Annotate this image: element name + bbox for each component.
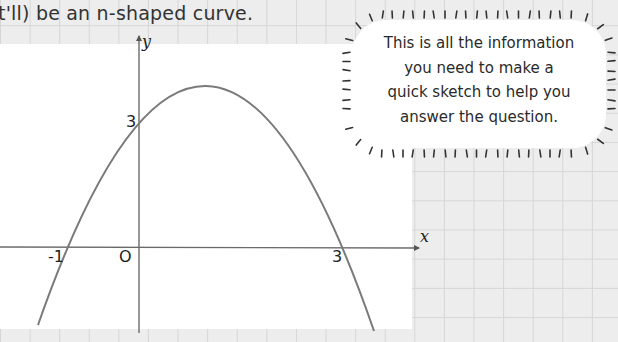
x-axis-label: x [420,229,429,245]
x-intercept-right-label: 3 [332,249,342,265]
y-axis-label: y [142,34,151,50]
callout-line: quick sketch to help you [352,80,606,105]
callout-text: This is all the information you need to … [352,31,606,129]
callout-line: you need to make a [352,56,606,81]
origin-label: O [119,249,132,265]
callout-line: This is all the information [352,31,606,56]
x-intercept-left-label: -1 [48,249,64,265]
parabola-curve [38,86,374,331]
callout-line: answer the question. [352,105,606,130]
y-intercept-label: 3 [126,114,136,130]
